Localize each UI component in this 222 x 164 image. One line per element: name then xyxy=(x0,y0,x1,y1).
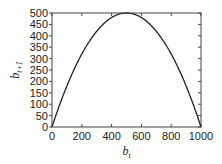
data-curve xyxy=(52,13,201,127)
x-tick-label: 200 xyxy=(73,130,91,142)
y-tick-label: 500 xyxy=(30,7,48,19)
logistic-map-chart: 050100150200250300350400450500 020040060… xyxy=(0,0,222,164)
y-axis-label: bt+1 xyxy=(8,61,24,79)
x-tick-label: 600 xyxy=(132,130,150,142)
y-tick-label: 150 xyxy=(30,87,48,99)
x-axis-ticks: 02004006008001000 xyxy=(49,13,213,142)
x-tick-label: 400 xyxy=(102,130,120,142)
y-tick-label: 200 xyxy=(30,75,48,87)
y-tick-label: 350 xyxy=(30,41,48,53)
y-tick-label: 50 xyxy=(36,110,48,122)
x-axis-label: bt xyxy=(122,144,131,160)
x-tick-label: 0 xyxy=(49,130,55,142)
y-tick-label: 100 xyxy=(30,98,48,110)
y-tick-label: 250 xyxy=(30,64,48,76)
y-tick-label: 0 xyxy=(42,121,48,133)
y-tick-label: 300 xyxy=(30,53,48,65)
x-tick-label: 800 xyxy=(162,130,180,142)
y-axis-ticks: 050100150200250300350400450500 xyxy=(30,7,201,133)
y-tick-label: 450 xyxy=(30,18,48,30)
y-tick-label: 400 xyxy=(30,30,48,42)
x-tick-label: 1000 xyxy=(189,130,213,142)
